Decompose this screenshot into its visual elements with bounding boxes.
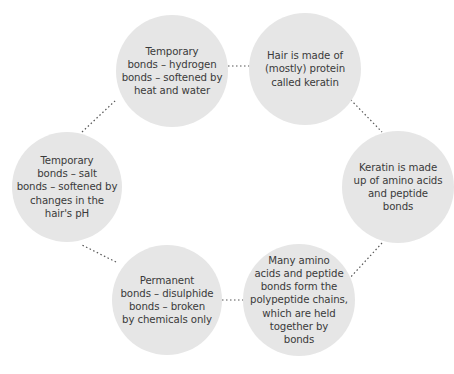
node-polypeptide-chains: Many amino acids and peptide bonds form …	[243, 244, 355, 356]
node-hydrogen-bonds: Temporary bonds – hydrogen bonds – softe…	[116, 15, 228, 127]
node-disulphide-bonds: Permanent bonds – disulphide bonds – bro…	[112, 245, 222, 355]
connector-keratin-to-polypeptide	[348, 243, 382, 280]
node-text: Hair is made of (mostly) protein called …	[265, 49, 345, 89]
node-salt-bonds: Temporary bonds – salt bonds – softened …	[12, 132, 122, 242]
connector-hair-to-keratin	[348, 97, 382, 132]
node-text: Temporary bonds – hydrogen bonds – softe…	[122, 45, 223, 98]
connector-salt-to-hydrogen	[82, 100, 116, 132]
node-text: Temporary bonds – salt bonds – softened …	[17, 154, 118, 220]
node-text: Permanent bonds – disulphide bonds – bro…	[120, 274, 213, 327]
connector-disulphide-to-salt	[82, 245, 116, 262]
node-text: Many amino acids and peptide bonds form …	[250, 254, 348, 346]
node-text: Keratin is made up of amino acids and pe…	[354, 161, 443, 214]
node-hair-keratin: Hair is made of (mostly) protein called …	[249, 13, 361, 125]
node-keratin-amino: Keratin is made up of amino acids and pe…	[342, 131, 454, 243]
